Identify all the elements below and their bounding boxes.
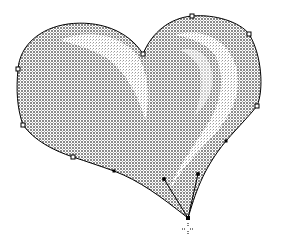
- control-handle[interactable]: [162, 177, 166, 181]
- anchor-point-left-side-lower[interactable]: [21, 123, 25, 127]
- control-handle[interactable]: [196, 172, 200, 176]
- anchor-point-right-lobe-top[interactable]: [190, 14, 194, 18]
- heart-shape[interactable]: [17, 16, 261, 218]
- anchor-point-left-side-upper[interactable]: [16, 67, 20, 71]
- anchor-point-right-lower[interactable]: [225, 140, 228, 143]
- anchor-point-left-lower[interactable]: [113, 170, 116, 173]
- anchor-point-top-cleft[interactable]: [141, 52, 145, 56]
- crosshair-cursor-icon: [182, 223, 194, 235]
- anchor-point-right-lobe-side[interactable]: [255, 104, 259, 108]
- anchor-point-left-bottom[interactable]: [71, 155, 75, 159]
- drawing-canvas[interactable]: [0, 0, 282, 249]
- anchor-point-right-lobe-upper[interactable]: [247, 32, 251, 36]
- anchor-point-bottom-tip[interactable]: [186, 216, 190, 220]
